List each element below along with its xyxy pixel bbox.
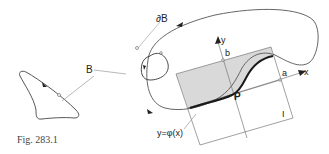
boundary-direction-arrow-icon bbox=[176, 22, 183, 27]
region-label-leaders bbox=[62, 70, 126, 101]
function-label: y=φ(x) bbox=[157, 128, 183, 138]
interval-label: I bbox=[282, 109, 285, 119]
point-label: P bbox=[234, 91, 241, 102]
hole-direction-arrow-icon bbox=[143, 65, 146, 70]
boundary-direction-arrow-icon-2 bbox=[147, 109, 153, 114]
region-label: B bbox=[86, 64, 93, 75]
b-label: b bbox=[225, 48, 230, 58]
b-marker bbox=[222, 59, 225, 62]
y-axis-label: y bbox=[221, 35, 226, 45]
x-axis-label: x bbox=[304, 67, 309, 77]
a-label: a bbox=[282, 68, 287, 78]
boundary-label: ∂B bbox=[156, 13, 168, 24]
figure-diagram: ∂B B y x b a P I y=φ(x) Fig. 283.1 bbox=[0, 0, 329, 154]
boundary-leader bbox=[138, 22, 160, 48]
left-direction-arrow-icon bbox=[42, 82, 47, 87]
figure-caption: Fig. 283.1 bbox=[17, 134, 58, 145]
a-marker bbox=[279, 79, 282, 82]
